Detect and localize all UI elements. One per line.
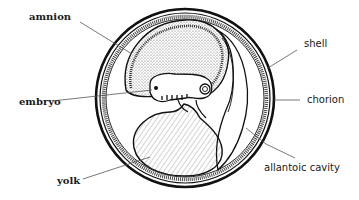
yolk bbox=[133, 104, 222, 176]
label-embryo: embryo bbox=[19, 97, 61, 107]
label-chorion: chorion bbox=[307, 95, 344, 105]
label-amnion: amnion bbox=[29, 12, 71, 22]
embryo bbox=[150, 73, 212, 101]
label-shell: shell bbox=[304, 39, 327, 49]
label-allantoic-cavity: allantoic cavity bbox=[264, 163, 340, 173]
label-yolk: yolk bbox=[57, 176, 80, 186]
